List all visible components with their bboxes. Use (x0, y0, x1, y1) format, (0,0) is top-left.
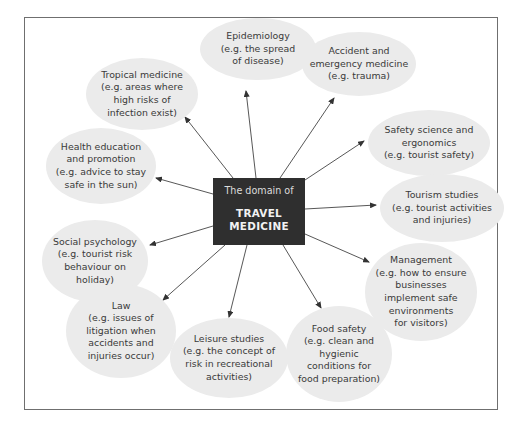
node-example: (e.g. the spread (221, 43, 296, 56)
node-example: (e.g. issues of (88, 312, 153, 325)
node-label: Management (390, 254, 452, 267)
node-example: high risks of (113, 94, 170, 107)
arrow-safety (305, 141, 364, 180)
node-law: Law (e.g. issues of litigation when acci… (66, 284, 176, 378)
node-label: emergency medicine (310, 58, 409, 71)
node-example: (e.g. tourist risk (58, 248, 132, 261)
node-safety-science: Safety science and ergonomics (e.g. tour… (368, 110, 490, 176)
node-example: behaviour on (64, 261, 126, 274)
node-example: businesses (395, 279, 447, 292)
node-example: (e.g. areas where (101, 81, 183, 94)
node-accident-emergency: Accident and emergency medicine (e.g. tr… (302, 32, 416, 96)
arrow-law (163, 245, 225, 300)
node-example: risk in recreational (185, 358, 272, 371)
node-label: Tropical medicine (101, 69, 183, 82)
node-epidemiology: Epidemiology (e.g. the spread of disease… (200, 18, 316, 80)
arrow-social (150, 226, 213, 245)
node-example: hygienic (319, 348, 359, 361)
node-example: food preparation) (298, 373, 380, 386)
arrow-epidemiology (246, 91, 256, 178)
node-label: Health education (61, 141, 141, 154)
node-leisure-studies: Leisure studies (e.g. the concept of ris… (170, 318, 288, 398)
node-example: accidents and (88, 337, 154, 350)
node-label: Leisure studies (194, 333, 264, 346)
node-example: (e.g. the concept of (183, 345, 275, 358)
node-tropical-medicine: Tropical medicine (e.g. areas where high… (86, 58, 198, 130)
central-title-line2: MEDICINE (213, 220, 305, 232)
node-tourism-studies: Tourism studies (e.g. tourist activities… (380, 174, 504, 242)
node-label: Food safety (312, 323, 366, 336)
central-title-line1: TRAVEL (213, 207, 305, 219)
arrow-food (283, 245, 321, 308)
node-example: (e.g. how to ensure (376, 267, 467, 280)
node-label: Social psychology (53, 236, 137, 249)
node-label: Tourism studies (406, 189, 479, 202)
central-topic-box: The domain of TRAVEL MEDICINE (213, 178, 305, 245)
node-label: ergonomics (402, 137, 457, 150)
node-label: Epidemiology (226, 30, 290, 43)
node-label: Law (112, 300, 131, 313)
arrow-leisure (229, 245, 247, 317)
node-example: for visitors) (394, 317, 447, 330)
node-example: (e.g. tourist safety) (384, 149, 474, 162)
node-example: implement safe (384, 292, 457, 305)
node-example: infection exist) (107, 107, 177, 120)
node-example: activities) (206, 371, 252, 384)
node-health-education: Health education and promotion (e.g. adv… (46, 128, 156, 204)
node-label: Safety science and (385, 124, 474, 137)
node-example: safe in the sun) (65, 179, 138, 192)
node-label: and promotion (67, 153, 136, 166)
node-example: conditions for (307, 360, 371, 373)
node-example: environments (389, 305, 454, 318)
node-example: (e.g. tourist activities (392, 202, 492, 215)
node-example: (e.g. advice to stay (56, 166, 146, 179)
arrow-tropical (185, 117, 233, 178)
node-example: (e.g. trauma) (328, 70, 390, 83)
arrow-health (156, 178, 213, 194)
node-example: of disease) (232, 55, 283, 68)
node-food-safety: Food safety (e.g. clean and hygienic con… (286, 306, 392, 402)
node-example: (e.g. clean and (304, 335, 374, 348)
central-subtitle: The domain of (213, 185, 305, 196)
arrow-tourism (305, 205, 376, 209)
node-label: Accident and (328, 45, 389, 58)
node-example: injuries occur) (88, 350, 155, 363)
node-example: and injuries) (413, 214, 471, 227)
arrow-management (305, 234, 369, 262)
node-example: litigation when (86, 325, 155, 338)
